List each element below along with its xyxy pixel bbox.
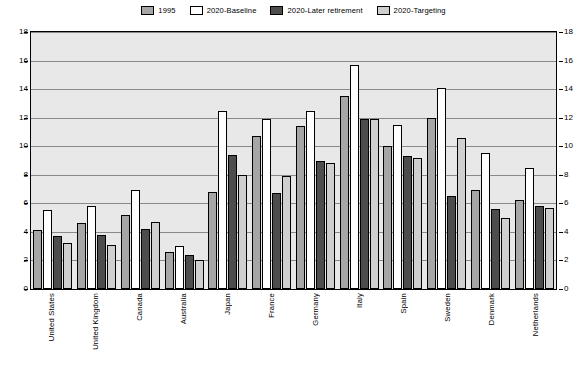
y-axis-tick-mark [24,203,28,204]
bar[interactable] [393,125,402,289]
bar[interactable] [545,208,554,289]
legend-swatch-icon [270,6,283,15]
bar[interactable] [77,223,86,289]
bar[interactable] [131,190,140,289]
bar[interactable] [413,158,422,289]
bar[interactable] [165,252,174,289]
bar[interactable] [53,236,62,289]
bar[interactable] [43,210,52,289]
x-axis-category: Australia [162,293,206,375]
x-axis-category: Italy [337,293,381,375]
bar[interactable] [427,118,436,289]
y-axis-tick-mark [559,89,563,90]
bar[interactable] [208,192,217,289]
x-axis-category: France [250,293,294,375]
chart-container: 19952020-Baseline2020-Later retirement20… [0,0,587,378]
bar[interactable] [107,245,116,289]
bar[interactable] [141,229,150,289]
bar[interactable] [238,175,247,289]
x-axis-category: Netherlands [513,293,557,375]
bar[interactable] [491,209,500,289]
bar[interactable] [63,243,72,289]
x-axis-category-label: United Kingdom [91,293,100,350]
bar-group [381,32,425,289]
x-axis-category: Spain [381,293,425,375]
y-axis-tick-mark [24,32,28,33]
bar[interactable] [33,230,42,289]
x-axis-category-label: Germany [311,293,320,326]
x-axis-category-label: France [267,293,276,318]
y-axis-tick-mark [559,118,563,119]
x-axis-category: United States [30,293,74,375]
bar[interactable] [340,96,349,289]
bar[interactable] [306,111,315,289]
bar[interactable] [457,138,466,289]
bar[interactable] [360,119,369,289]
bar[interactable] [326,163,335,289]
bar[interactable] [121,215,130,289]
x-axis-category-label: Canada [135,293,144,321]
y-axis-tick-label: 18 [559,28,587,36]
bar[interactable] [218,111,227,289]
x-axis-category: Sweden [425,293,469,375]
y-axis-tick-label: 6 [559,199,587,207]
bar-group [469,32,513,289]
x-axis-category: Germany [294,293,338,375]
legend-item[interactable]: 2020-Targeting [377,6,446,15]
bar[interactable] [228,155,237,289]
y-axis-tick-mark [24,232,28,233]
bar-group [206,32,250,289]
y-axis-tick-mark [24,175,28,176]
bar-group [75,32,119,289]
x-axis-category-label: Italy [355,293,364,308]
x-axis-category-label: Denmark [487,293,496,325]
bar[interactable] [296,126,305,289]
bar[interactable] [535,206,544,289]
bar[interactable] [175,246,184,289]
bar[interactable] [262,119,271,289]
bar[interactable] [195,260,204,289]
x-axis-category-label: Netherlands [531,293,540,336]
bar[interactable] [383,146,392,289]
bar[interactable] [316,161,325,290]
bar[interactable] [151,222,160,289]
legend-item[interactable]: 1995 [141,6,175,15]
bar[interactable] [185,255,194,289]
bar[interactable] [272,193,281,289]
bar[interactable] [87,206,96,289]
bar-groups [31,32,556,289]
bar[interactable] [370,119,379,289]
y-axis-right: 024681012141618 [559,31,585,290]
y-axis-tick-mark [24,289,28,290]
y-axis-tick-mark [559,203,563,204]
y-axis-tick-label: 16 [559,57,587,65]
bar[interactable] [403,156,412,289]
bar[interactable] [501,218,510,289]
y-axis-tick-mark [559,175,563,176]
bar[interactable] [282,176,291,289]
bar[interactable] [515,200,524,289]
bar[interactable] [481,153,490,289]
x-axis-category-labels: United StatesUnited KingdomCanadaAustral… [30,293,557,375]
bar[interactable] [97,235,106,289]
bar-group [162,32,206,289]
y-axis-left: 024681012141618 [2,31,28,290]
bar[interactable] [350,65,359,289]
legend-item[interactable]: 2020-Later retirement [270,6,362,15]
legend-swatch-icon [190,6,203,15]
bar[interactable] [437,88,446,289]
x-axis-category-label: Australia [179,293,188,324]
legend-item-label: 2020-Targeting [394,6,446,15]
y-axis-tick-mark [559,260,563,261]
y-axis-tick-mark [559,32,563,33]
legend-item-label: 2020-Baseline [207,6,257,15]
x-axis-category-label: United States [47,293,56,341]
bar[interactable] [525,168,534,289]
chart-legend: 19952020-Baseline2020-Later retirement20… [0,6,587,15]
legend-item[interactable]: 2020-Baseline [190,6,257,15]
x-axis-category: United Kingdom [74,293,118,375]
bar[interactable] [252,136,261,289]
bar[interactable] [447,196,456,289]
bar[interactable] [471,190,480,289]
bar-group [512,32,556,289]
